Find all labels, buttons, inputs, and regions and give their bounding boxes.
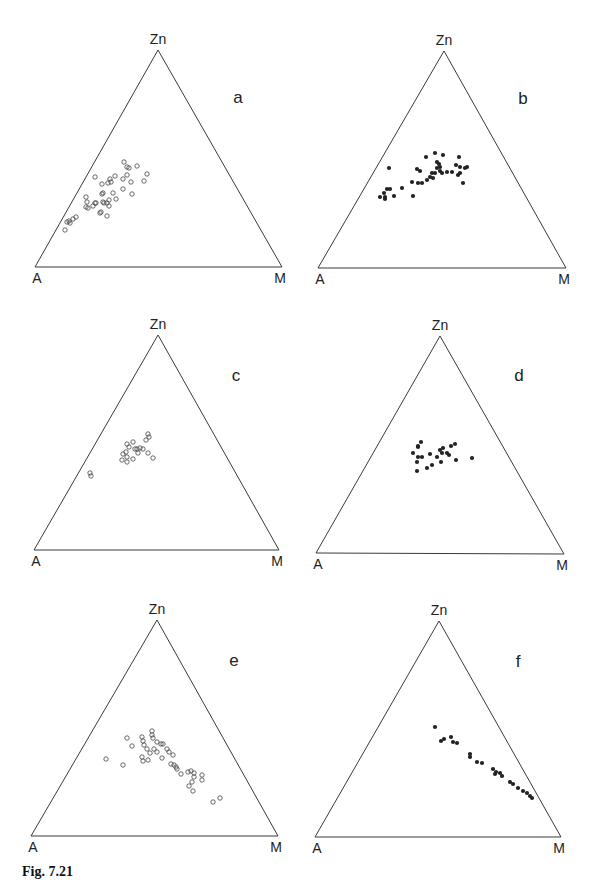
data-points xyxy=(411,440,474,473)
data-point xyxy=(141,447,145,451)
data-point xyxy=(447,453,451,457)
ternary-panel-b: ZnAMb xyxy=(315,32,570,287)
data-point xyxy=(525,791,529,795)
data-point xyxy=(187,784,191,788)
data-point xyxy=(416,455,420,459)
data-point xyxy=(411,451,415,455)
data-point xyxy=(454,163,458,167)
data-point xyxy=(382,191,386,195)
data-point xyxy=(450,170,454,174)
data-point xyxy=(151,736,155,740)
data-point xyxy=(171,753,175,757)
data-point xyxy=(511,782,515,786)
data-point xyxy=(211,800,215,804)
apex-label-a: A xyxy=(315,271,325,287)
data-point xyxy=(431,176,435,180)
data-point xyxy=(148,751,152,755)
apex-label-a: A xyxy=(32,270,42,286)
data-point xyxy=(383,197,387,201)
data-point xyxy=(105,214,109,218)
data-point xyxy=(465,165,469,169)
data-point xyxy=(468,755,472,759)
data-point xyxy=(441,446,445,450)
data-point xyxy=(440,451,444,455)
data-point xyxy=(442,737,446,741)
data-point xyxy=(530,796,534,800)
apex-label-m: M xyxy=(271,553,283,569)
apex-label-m: M xyxy=(274,270,286,286)
ternary-panel-e: ZnAMe xyxy=(28,601,282,855)
data-point xyxy=(457,155,461,159)
data-point xyxy=(114,197,118,201)
data-point xyxy=(88,471,92,475)
data-point xyxy=(456,173,460,177)
figure-caption: Fig. 7.21 xyxy=(22,864,73,880)
data-point xyxy=(480,761,484,765)
panel-label: b xyxy=(518,89,527,108)
apex-label-zn: Zn xyxy=(150,316,166,332)
data-point xyxy=(125,173,129,177)
ternary-figure: ZnAMaZnAMbZnAMcZnAMdZnAMeZnAMf xyxy=(0,0,597,880)
data-point xyxy=(144,438,148,442)
data-points xyxy=(378,151,469,201)
apex-label-m: M xyxy=(556,557,568,573)
data-point xyxy=(111,191,115,195)
data-point xyxy=(125,736,129,740)
data-point xyxy=(122,160,126,164)
apex-label-a: A xyxy=(31,553,41,569)
data-point xyxy=(145,747,149,751)
data-point xyxy=(125,455,129,459)
data-point xyxy=(121,763,125,767)
triangle-axis xyxy=(315,621,561,837)
triangle-axis xyxy=(318,51,566,268)
panel-label: e xyxy=(229,651,238,670)
data-point xyxy=(475,760,479,764)
data-point xyxy=(440,171,444,175)
data-point xyxy=(106,181,110,185)
data-point xyxy=(410,180,414,184)
triangle-axis xyxy=(31,620,278,836)
data-point xyxy=(445,170,449,174)
data-point xyxy=(455,741,459,745)
data-point xyxy=(169,762,173,766)
ternary-panel-c: ZnAMc xyxy=(31,316,283,569)
panel-label: a xyxy=(233,88,243,107)
ternary-panel-f: ZnAMf xyxy=(312,602,565,856)
data-point xyxy=(93,175,97,179)
data-point xyxy=(131,440,135,444)
data-point xyxy=(190,780,194,784)
data-point xyxy=(146,432,150,436)
panel-label: f xyxy=(516,652,521,671)
data-point xyxy=(425,178,429,182)
data-point xyxy=(415,469,419,473)
data-point xyxy=(218,796,222,800)
data-point xyxy=(85,200,89,204)
data-point xyxy=(420,181,424,185)
data-point xyxy=(191,789,195,793)
data-point xyxy=(435,166,439,170)
panel-label: c xyxy=(232,366,241,385)
panel-label: d xyxy=(514,366,523,385)
data-point xyxy=(419,440,423,444)
data-point xyxy=(200,773,204,777)
data-point xyxy=(425,466,429,470)
data-point xyxy=(145,172,149,176)
data-point xyxy=(387,166,391,170)
data-point xyxy=(493,772,497,776)
data-point xyxy=(449,735,453,739)
data-point xyxy=(141,759,145,763)
apex-label-zn: Zn xyxy=(432,317,448,333)
data-point xyxy=(415,460,419,464)
data-point xyxy=(130,744,134,748)
data-point xyxy=(101,200,105,204)
data-point xyxy=(491,767,495,771)
data-point xyxy=(516,786,520,790)
data-point xyxy=(138,446,142,450)
data-point xyxy=(63,228,67,232)
data-point xyxy=(179,772,183,776)
data-point xyxy=(430,171,434,175)
data-point xyxy=(129,180,133,184)
data-point xyxy=(121,187,125,191)
data-point xyxy=(470,456,474,460)
data-point xyxy=(430,463,434,467)
